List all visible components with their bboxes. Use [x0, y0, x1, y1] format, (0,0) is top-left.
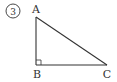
- problem-number: 3: [6, 4, 20, 18]
- side-ac: [36, 17, 107, 65]
- vertex-label-c: C: [103, 68, 111, 81]
- problem-number-text: 3: [10, 7, 16, 17]
- right-angle-marker: [36, 60, 41, 65]
- triangle-abc: [36, 17, 107, 65]
- diagram-canvas: 3 A B C: [0, 0, 117, 82]
- vertex-label-b: B: [33, 68, 41, 81]
- vertex-label-a: A: [31, 3, 41, 16]
